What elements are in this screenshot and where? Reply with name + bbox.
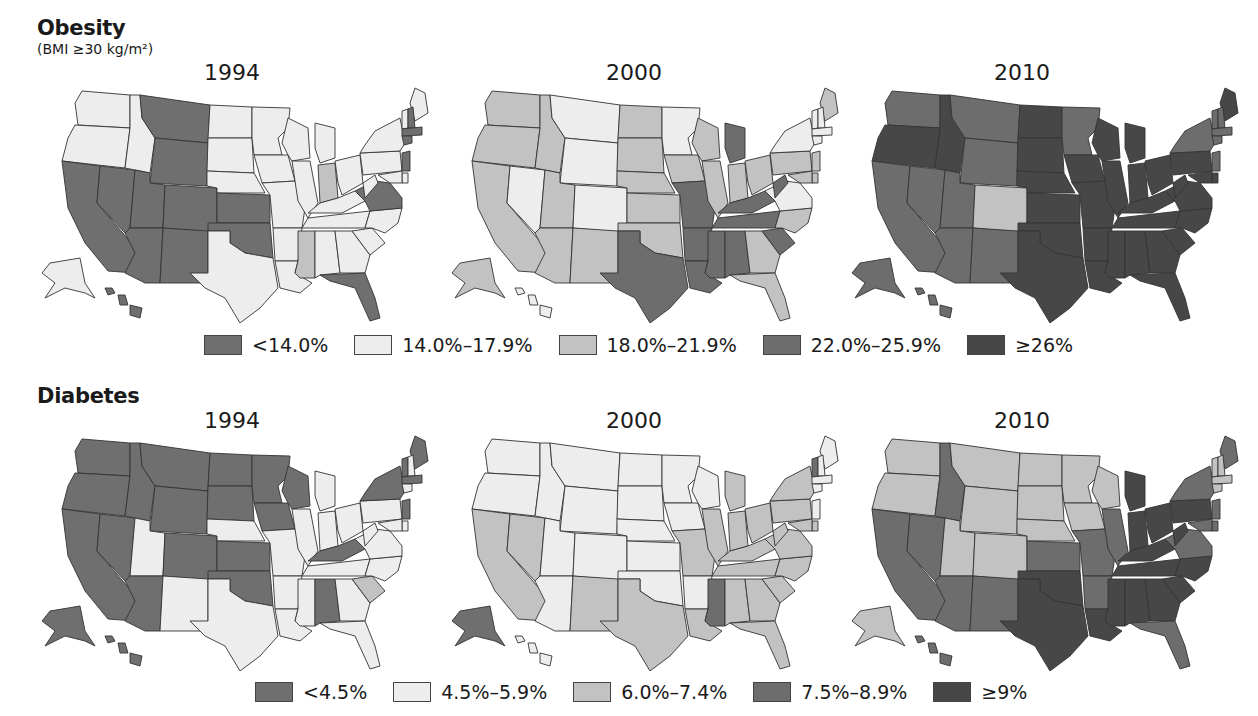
state-va [355, 529, 402, 559]
state-nj [402, 151, 410, 171]
state-de [812, 521, 818, 531]
state-ct [812, 136, 822, 145]
obesity-title: Obesity [37, 16, 125, 40]
state-hi [515, 636, 552, 666]
state-nd [208, 105, 252, 138]
diabetes-year-2010: 2010 [962, 408, 1082, 433]
state-wy [560, 486, 618, 534]
state-fl [730, 621, 790, 669]
state-tn [302, 211, 370, 228]
state-vt [402, 109, 408, 129]
diabetes-year-2000: 2000 [574, 408, 694, 433]
state-tn [712, 559, 780, 576]
legend-label: 6.0%–7.4% [621, 681, 727, 703]
state-hi [105, 636, 142, 666]
state-ks [627, 541, 680, 571]
state-wi [282, 466, 310, 509]
state-or [62, 125, 130, 168]
state-ct [402, 484, 412, 493]
state-wy [560, 138, 618, 186]
obesity-map-2000 [440, 83, 840, 323]
state-ia [254, 503, 295, 531]
state-ia [1064, 155, 1105, 183]
state-sd [1017, 138, 1064, 173]
state-de [812, 173, 818, 183]
state-de [1212, 521, 1218, 531]
legend-item: 6.0%–7.4% [573, 681, 727, 703]
state-va [765, 529, 812, 559]
state-ia [254, 155, 295, 183]
state-fl [1130, 273, 1190, 321]
state-or [872, 473, 940, 516]
us-choropleth-map [30, 431, 430, 671]
state-ct [1212, 484, 1222, 493]
legend-item: ≥26% [967, 334, 1073, 356]
state-ms [1105, 579, 1125, 626]
state-or [472, 473, 540, 516]
state-sd [207, 138, 254, 173]
state-mi [1125, 471, 1145, 511]
state-wa [75, 439, 130, 476]
state-or [472, 125, 540, 168]
legend-label: 7.5%–8.9% [801, 681, 907, 703]
state-vt [402, 457, 408, 477]
state-mi [725, 471, 745, 511]
us-choropleth-map [440, 83, 840, 323]
state-in [728, 163, 748, 203]
diabetes-legend: <4.5% 4.5%–5.9% 6.0%–7.4% 7.5%–8.9% ≥9% [255, 681, 1053, 703]
state-pa [360, 499, 402, 523]
state-ct [1212, 136, 1222, 145]
state-ak [42, 606, 95, 646]
diabetes-map-2010 [840, 431, 1240, 671]
state-ms [705, 579, 725, 626]
state-ia [1064, 503, 1105, 531]
state-ak [852, 258, 905, 298]
state-nd [208, 453, 252, 486]
legend-swatch [354, 335, 392, 355]
diabetes-map-2000 [440, 431, 840, 671]
state-hi [105, 288, 142, 318]
state-hi [515, 288, 552, 318]
state-ms [1105, 231, 1125, 278]
state-wa [885, 91, 940, 128]
state-va [1165, 181, 1212, 211]
state-ma [1212, 475, 1232, 484]
obesity-year-2010: 2010 [962, 60, 1082, 85]
state-wa [885, 439, 940, 476]
legend-swatch [204, 335, 242, 355]
state-vt [812, 457, 818, 477]
state-ny [770, 466, 815, 501]
state-sd [617, 486, 664, 521]
state-nj [1212, 499, 1220, 519]
state-fl [320, 273, 380, 321]
state-nj [812, 499, 820, 519]
state-ny [360, 466, 405, 501]
legend-label: ≥26% [1015, 334, 1073, 356]
state-ny [1170, 118, 1215, 153]
state-nd [1018, 453, 1062, 486]
state-va [1165, 529, 1212, 559]
legend-item: 18.0%–21.9% [559, 334, 737, 356]
state-ct [402, 136, 412, 145]
state-vt [1212, 109, 1218, 129]
legend-item: 14.0%–17.9% [354, 334, 532, 356]
state-de [402, 173, 408, 183]
state-mi [725, 123, 745, 163]
state-wy [150, 138, 208, 186]
obesity-legend: <14.0% 14.0%–17.9% 18.0%–21.9% 22.0%–25.… [204, 334, 1099, 356]
state-vt [1212, 457, 1218, 477]
state-ks [217, 193, 270, 223]
state-mi [1125, 123, 1145, 163]
state-hi [915, 636, 952, 666]
state-ma [402, 127, 422, 136]
state-fl [730, 273, 790, 321]
diabetes-map-1994 [30, 431, 430, 671]
legend-swatch [559, 335, 597, 355]
state-in [1128, 511, 1148, 551]
obesity-map-2010 [840, 83, 1240, 323]
state-wi [1092, 466, 1120, 509]
legend-label: 22.0%–25.9% [811, 334, 941, 356]
state-wi [692, 466, 720, 509]
diabetes-year-1994: 1994 [172, 408, 292, 433]
state-va [765, 181, 812, 211]
